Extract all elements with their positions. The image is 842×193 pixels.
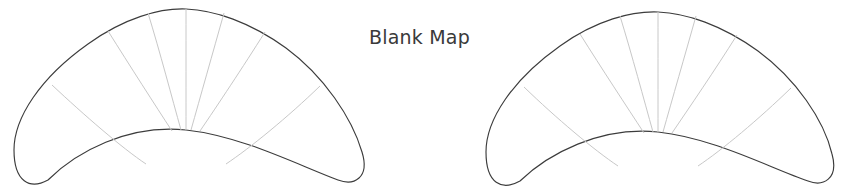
blank-map-figure-right (470, 0, 842, 193)
blank-map-page: Blank Map (0, 0, 842, 193)
blank-map-svg-left (0, 0, 380, 193)
blank-map-svg-right (470, 0, 842, 193)
region-outline-path (14, 9, 364, 184)
region-outline-path (486, 12, 834, 185)
blank-map-figure-left (0, 0, 380, 193)
